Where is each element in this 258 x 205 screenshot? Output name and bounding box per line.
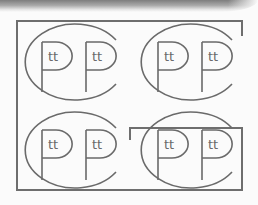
logo-bottom-left: tt tt	[25, 112, 116, 188]
logo-text-tt: tt	[208, 137, 218, 152]
logo-text-tt: tt	[48, 49, 58, 64]
logo-bottom-right: tt tt	[141, 112, 232, 188]
outer-frame	[17, 21, 242, 190]
logo-text-tt: tt	[208, 49, 218, 64]
logo-top-right: tt tt	[141, 24, 232, 100]
logo-text-tt: tt	[164, 137, 174, 152]
logo-text-tt: tt	[92, 137, 102, 152]
logo-text-tt: tt	[164, 49, 174, 64]
logo-top-left: tt tt	[25, 24, 116, 100]
logo-text-tt: tt	[92, 49, 102, 64]
logo-text-tt: tt	[48, 137, 58, 152]
logo-diagram: tt tt tt tt tt tt tt tt	[0, 0, 258, 205]
